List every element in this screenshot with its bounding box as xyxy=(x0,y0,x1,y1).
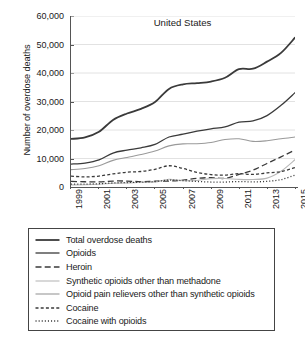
legend-item[interactable]: Opioids xyxy=(29,247,274,261)
series-line xyxy=(71,166,295,177)
legend-line-swatch-icon xyxy=(35,276,60,286)
series-lines xyxy=(71,16,295,187)
chart-plot-region: Number of overdose deaths 010,00020,0003… xyxy=(0,0,305,222)
plot-canvas xyxy=(70,16,295,187)
x-tick-label: 2007 xyxy=(187,189,197,209)
legend-item[interactable]: Total overdose deaths xyxy=(29,233,274,247)
x-tick-label: 2015 xyxy=(299,189,305,209)
x-tick-mark xyxy=(239,187,240,189)
legend-item[interactable]: Synthetic opioids other than methadone xyxy=(29,274,274,288)
y-axis-tick-labels: 010,00020,00030,00040,00050,00060,000 xyxy=(8,0,64,200)
y-tick-label: 60,000 xyxy=(36,11,64,21)
y-tick-label: 0 xyxy=(59,182,64,192)
x-tick-label: 2003 xyxy=(130,189,140,209)
legend-item-label: Cocaine with opioids xyxy=(66,316,146,326)
x-tick-mark xyxy=(98,187,99,189)
chart-legend: Total overdose deathsOpioidsHeroinSynthe… xyxy=(28,228,275,331)
legend-line-swatch-icon xyxy=(35,262,60,272)
data-series-group xyxy=(71,38,295,185)
x-tick-label: 2005 xyxy=(158,189,168,209)
y-tick-label: 30,000 xyxy=(36,97,64,107)
x-tick-mark xyxy=(211,187,212,189)
legend-line-swatch-icon xyxy=(35,303,60,313)
chart-figure: Number of overdose deaths 010,00020,0003… xyxy=(0,0,305,338)
legend-item-label: Heroin xyxy=(66,262,92,272)
y-tick-label: 10,000 xyxy=(36,154,64,164)
y-tick-label: 40,000 xyxy=(36,68,64,78)
y-tick-label: 20,000 xyxy=(36,125,64,135)
legend-item-label: Total overdose deaths xyxy=(66,235,152,245)
x-tick-mark xyxy=(183,187,184,189)
x-tick-mark xyxy=(126,187,127,189)
x-tick-mark xyxy=(154,187,155,189)
x-tick-mark xyxy=(295,187,296,189)
legend-item-label: Opioids xyxy=(66,248,96,258)
x-tick-mark xyxy=(70,187,71,189)
series-line xyxy=(71,150,295,182)
legend-line-swatch-icon xyxy=(35,316,60,326)
legend-item-label: Synthetic opioids other than methadone xyxy=(66,276,221,286)
legend-line-swatch-icon xyxy=(35,235,60,245)
x-axis-line xyxy=(70,187,298,188)
x-tick-label: 2001 xyxy=(102,189,112,209)
legend-item[interactable]: Cocaine xyxy=(29,301,274,315)
x-tick-label: 2011 xyxy=(243,189,253,208)
gridlines xyxy=(71,16,295,159)
legend-item[interactable]: Cocaine with opioids xyxy=(29,315,274,329)
legend-line-swatch-icon xyxy=(35,289,60,299)
x-tick-label: 1999 xyxy=(74,189,84,209)
x-tick-label: 2013 xyxy=(271,189,281,209)
legend-line-swatch-icon xyxy=(35,248,60,258)
chart-title: United States xyxy=(70,17,295,28)
legend-item-label: Cocaine xyxy=(66,303,98,313)
legend-item[interactable]: Opioid pain relievers other than synthet… xyxy=(29,287,274,301)
legend-item[interactable]: Heroin xyxy=(29,260,274,274)
x-axis-tick-labels: 199920012003200520072009201120132015 xyxy=(70,189,295,223)
y-tick-label: 50,000 xyxy=(36,40,64,50)
series-line xyxy=(71,38,295,139)
series-line xyxy=(71,137,295,170)
x-tick-mark xyxy=(267,187,268,189)
legend-item-label: Opioid pain relievers other than synthet… xyxy=(66,289,255,299)
x-tick-label: 2009 xyxy=(215,189,225,209)
